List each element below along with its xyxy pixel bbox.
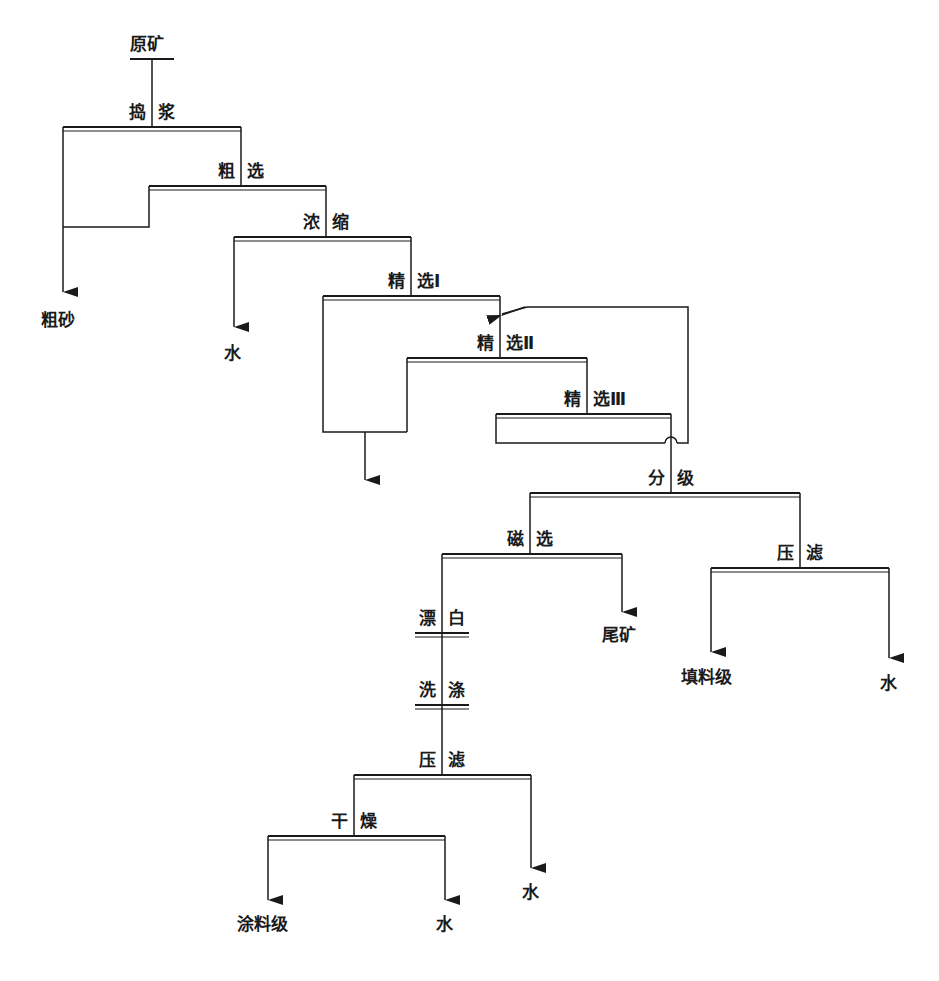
label-clean3-right: 选Ⅲ: [587, 389, 626, 409]
output-filler-grade: 填料级: [681, 667, 732, 687]
slurry-node: [63, 127, 241, 292]
label-clean2-left: 精: [470, 333, 500, 353]
label-washing: 洗 涤: [412, 680, 465, 700]
cleaning-1-node: [323, 296, 500, 480]
drying-node: [268, 836, 445, 900]
output-coarse-sand: 粗砂: [41, 310, 75, 330]
label-slurry: 捣 浆: [122, 102, 175, 122]
filter-press-2-node: [354, 775, 531, 868]
output-tailings: 尾矿: [602, 625, 636, 645]
label-thickening: 浓 缩: [296, 212, 349, 232]
label-magnetic-separation: 磁 选: [500, 529, 553, 549]
label-classify-right: 级: [671, 468, 694, 488]
label-clean1-right: 选Ⅰ: [411, 271, 440, 291]
label-filter-press-2: 压 滤: [412, 750, 465, 770]
label-bleaching: 漂 白: [412, 608, 465, 628]
label-clean2-right: 选Ⅱ: [500, 333, 534, 353]
label-cleaning-2: 精 选Ⅱ: [470, 333, 534, 353]
output-water-1: 水: [224, 343, 241, 363]
label-press1-left: 压: [770, 543, 800, 563]
label-slurry-right: 浆: [152, 102, 175, 122]
label-clean3-left: 精: [557, 389, 587, 409]
label-classify-left: 分: [641, 468, 671, 488]
label-dry-right: 燥: [354, 811, 377, 831]
label-press2-left: 压: [412, 750, 442, 770]
label-raw-ore: 原矿: [130, 34, 164, 54]
label-magsep-right: 选: [530, 529, 553, 549]
label-classification: 分 级: [641, 468, 694, 488]
label-rough-left: 粗: [211, 161, 241, 181]
flowchart-canvas: [0, 0, 939, 981]
output-water-3: 水: [522, 882, 539, 902]
magnetic-separation-node: [442, 554, 622, 775]
label-cleaning-3: 精 选Ⅲ: [557, 389, 626, 409]
label-magsep-left: 磁: [500, 529, 530, 549]
label-bleach-left: 漂: [412, 608, 442, 628]
classification-node: [530, 493, 800, 568]
label-filter-press-1: 压 滤: [770, 543, 823, 563]
label-slurry-left: 捣: [122, 102, 152, 122]
label-dry-left: 干: [324, 811, 354, 831]
label-thicken-right: 缩: [326, 212, 349, 232]
output-water-4: 水: [436, 914, 453, 934]
label-press1-right: 滤: [800, 543, 823, 563]
filter-press-1-node: [711, 568, 889, 658]
label-rough-right: 选: [241, 161, 264, 181]
label-clean1-left: 精: [381, 271, 411, 291]
label-cleaning-1: 精 选Ⅰ: [381, 271, 440, 291]
label-wash-left: 洗: [412, 680, 442, 700]
label-bleach-right: 白: [442, 608, 465, 628]
label-press2-right: 滤: [442, 750, 465, 770]
label-drying: 干 燥: [324, 811, 377, 831]
label-thicken-left: 浓: [296, 212, 326, 232]
output-coating-grade: 涂料级: [237, 914, 288, 934]
label-rough-separation: 粗 选: [211, 161, 264, 181]
label-wash-right: 涤: [442, 680, 465, 700]
rough-separation-node: [63, 186, 326, 237]
output-water-2: 水: [880, 673, 897, 693]
